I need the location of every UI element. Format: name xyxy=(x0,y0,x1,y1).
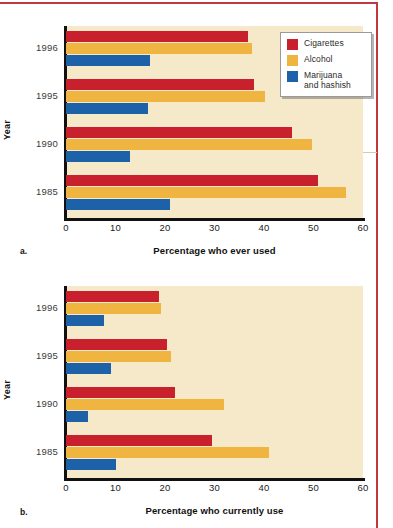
legend-swatch-alcohol-icon xyxy=(287,55,298,66)
x-axis-title-b: Percentage who currently use xyxy=(66,505,363,516)
y-axis-title-b: Year xyxy=(2,380,12,400)
bar-1995-marijuana xyxy=(66,103,148,114)
bar-1995-alcohol xyxy=(66,91,265,102)
bar-1995-cigarettes xyxy=(66,339,167,350)
x-axis-line-a xyxy=(64,218,365,221)
chart-panel-a: 1996199519901985 0102030405060 Year Perc… xyxy=(0,0,393,264)
bar-1996-alcohol xyxy=(66,303,161,314)
legend-label-marijuana-line2: and hashish xyxy=(304,80,351,90)
y-tick-1996: 1996 xyxy=(14,302,58,313)
bar-1990-marijuana xyxy=(66,151,130,162)
bar-1996-marijuana xyxy=(66,55,150,66)
bar-1996-alcohol xyxy=(66,43,252,54)
legend-label-marijuana: Marijuana and hashish xyxy=(304,70,351,90)
y-tick-1995: 1995 xyxy=(14,90,58,101)
y-axis-title-a: Year xyxy=(2,120,12,140)
legend-item-cigarettes: Cigarettes xyxy=(287,38,364,50)
x-tick-40: 40 xyxy=(259,482,270,493)
bar-1985-marijuana xyxy=(66,199,170,210)
x-axis-line-b xyxy=(64,478,365,481)
bar-1990-cigarettes xyxy=(66,127,292,138)
x-tick-40: 40 xyxy=(259,222,270,233)
bar-1985-cigarettes xyxy=(66,175,318,186)
x-tick-0: 0 xyxy=(63,482,68,493)
legend-item-alcohol: Alcohol xyxy=(287,54,364,66)
x-tick-60: 60 xyxy=(358,482,369,493)
x-tick-60: 60 xyxy=(358,222,369,233)
y-tick-1990: 1990 xyxy=(14,398,58,409)
x-tick-10: 10 xyxy=(110,222,121,233)
x-tick-30: 30 xyxy=(209,482,220,493)
bar-1996-marijuana xyxy=(66,315,104,326)
bar-1990-marijuana xyxy=(66,411,88,422)
legend-item-marijuana: Marijuana and hashish xyxy=(287,70,364,90)
bar-1985-alcohol xyxy=(66,447,269,458)
bar-1995-marijuana xyxy=(66,363,111,374)
bar-1990-alcohol xyxy=(66,139,312,150)
panel-letter-a: a. xyxy=(20,246,27,256)
x-tick-20: 20 xyxy=(160,222,171,233)
bar-1985-cigarettes xyxy=(66,435,212,446)
bar-1996-cigarettes xyxy=(66,31,248,42)
x-tick-0: 0 xyxy=(63,222,68,233)
bar-1990-cigarettes xyxy=(66,387,175,398)
x-tick-20: 20 xyxy=(160,482,171,493)
legend-swatch-marijuana-icon xyxy=(287,71,298,82)
x-axis-title-a: Percentage who ever used xyxy=(66,245,363,256)
legend-swatch-cigarettes-icon xyxy=(287,39,298,50)
bar-1985-alcohol xyxy=(66,187,346,198)
x-tick-30: 30 xyxy=(209,222,220,233)
y-tick-1990: 1990 xyxy=(14,138,58,149)
y-tick-1996: 1996 xyxy=(14,42,58,53)
bar-1996-cigarettes xyxy=(66,291,159,302)
chart-panel-b: 1996199519901985 0102030405060 Year Perc… xyxy=(0,264,393,528)
legend-a: Cigarettes Alcohol Marijuana and hashish xyxy=(280,32,372,97)
bar-1990-alcohol xyxy=(66,399,224,410)
panel-letter-b: b. xyxy=(20,507,28,517)
bar-1985-marijuana xyxy=(66,459,116,470)
figure-frame: 1996199519901985 0102030405060 Year Perc… xyxy=(0,0,393,528)
x-tick-50: 50 xyxy=(308,482,319,493)
legend-label-marijuana-line1: Marijuana xyxy=(304,70,342,80)
bar-1995-alcohol xyxy=(66,351,171,362)
y-tick-1995: 1995 xyxy=(14,350,58,361)
y-tick-1985: 1985 xyxy=(14,186,58,197)
y-tick-1985: 1985 xyxy=(14,446,58,457)
legend-label-cigarettes: Cigarettes xyxy=(304,38,344,48)
x-tick-50: 50 xyxy=(308,222,319,233)
bar-1995-cigarettes xyxy=(66,79,254,90)
legend-label-alcohol: Alcohol xyxy=(304,54,333,64)
x-tick-10: 10 xyxy=(110,482,121,493)
